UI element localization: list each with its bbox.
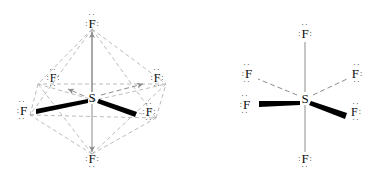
atom-f-upper-right: ·· : F : ·· [150, 68, 163, 88]
lone-pair-right: : [310, 29, 312, 37]
lone-pair-right: : [161, 74, 163, 82]
lone-pair-bottom: ·· [142, 118, 155, 122]
lone-pair-right: : [97, 19, 99, 27]
atom-f-lower-left-2: ·· : F ·· [240, 94, 250, 115]
atom-f-lower-right-2: ·· F : ·· [351, 102, 361, 122]
lone-pair-left: : [46, 74, 48, 82]
lone-pair-right: : [57, 74, 59, 82]
lone-pair-bottom: ·· [85, 165, 99, 169]
lone-pair-left: : [142, 108, 144, 116]
figure-canvas: S ·· : F : : F : ·· ·· : F : ·· ·· : F : [0, 0, 384, 177]
atom-s-center-2: S [301, 92, 308, 105]
lone-pair-left: : [298, 29, 300, 37]
atom-f-top: ·· : F : [85, 13, 99, 30]
lone-pair-left: : [85, 19, 87, 27]
lone-pair-left: : [150, 74, 152, 82]
atom-f-bottom: : F : ·· [85, 152, 99, 169]
atom-f-upper-left: ·· : F : ·· [46, 68, 59, 88]
atom-f-upper-left-2: ·· : F ·· [242, 63, 252, 84]
lone-pair-right: : [153, 108, 155, 116]
lone-pair-left: : [298, 154, 300, 162]
atom-f-upper-right-2: ·· F : ·· [352, 63, 362, 84]
lone-pair-bottom: ·· [150, 84, 163, 88]
lone-pair-right: : [97, 154, 99, 162]
lone-pair-bottom: ·· [352, 80, 362, 84]
atom-f-bottom-2: : F : ·· [298, 152, 312, 169]
lone-pair-left: : [85, 154, 87, 162]
lone-pair-bottom: ·· [298, 165, 312, 169]
atom-f-lower-right: ·· : F : ·· [142, 102, 155, 122]
atom-f-lower-left: ·· : F ·· [17, 100, 27, 121]
lone-pair-bottom: ·· [351, 118, 361, 122]
atom-s-center: S [88, 91, 95, 104]
lone-pair-bottom: ·· [46, 84, 59, 88]
lone-pair-right: : [310, 154, 312, 162]
plain-sf6-bond-layer [0, 0, 384, 177]
atom-f-top-2: ·· : F : [298, 23, 312, 40]
